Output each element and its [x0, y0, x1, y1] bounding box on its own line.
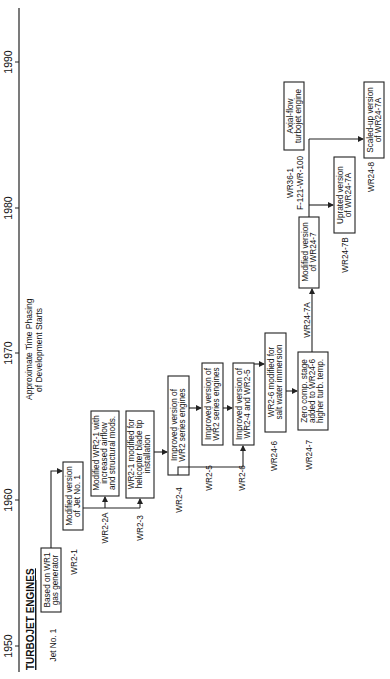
node-wr2-5: Improved version of WR2 series engines W…	[202, 363, 223, 491]
node-code: WR2-4	[175, 487, 184, 513]
node-wr24-8: Scaled-up version of WR24-7A WR24-8	[364, 82, 384, 192]
node-code: WR24-7B	[341, 237, 350, 273]
svg-text:WR2 series engines: WR2 series engines	[178, 388, 187, 461]
node-wr2-3: WR2-1 modified for helicopter blade tip …	[126, 411, 154, 541]
node-code: WR2-6	[238, 465, 247, 491]
timeline-axis: 1950 1960 1970 1980 1990	[2, 8, 19, 672]
svg-text:of Jet No. 1: of Jet No. 1	[73, 475, 82, 517]
node-code: WR36-1	[286, 168, 295, 198]
svg-text:of WR24-7A: of WR24-7A	[374, 97, 383, 142]
node-code: WR2-2A	[101, 512, 110, 543]
svg-text:WR2 series engines: WR2 series engines	[212, 367, 221, 440]
node-code: WR2-3	[136, 515, 145, 541]
year-1960: 1960	[2, 488, 14, 512]
node-jet-no-1: Based on WR1 gas generator Jet No. 1	[41, 548, 61, 661]
node-wr2-2a: Modified WR2-1 with increased airflow an…	[91, 411, 119, 543]
svg-text:gas generator: gas generator	[51, 554, 60, 605]
node-code: Jet No. 1	[49, 628, 58, 661]
svg-text:of WR24-7A: of WR24-7A	[344, 172, 353, 217]
node-code: WR24-6	[270, 441, 279, 471]
svg-text:turbojet engine: turbojet engine	[294, 88, 303, 143]
node-code: WR24-7	[305, 440, 314, 470]
node-code: WR2-5	[205, 465, 214, 491]
svg-text:of WR24-7: of WR24-7	[309, 232, 318, 272]
node-wr2-6: Improved version of WR2-4 and WR2-5 WR2-…	[233, 363, 254, 491]
node-wr2-4: Improved version of WR2 series engines W…	[168, 376, 189, 513]
node-wr24-7a: Modified version of WR24-7 WR24-7A	[299, 217, 319, 338]
axis-caption-line2: of Development Starts	[34, 308, 44, 392]
node-code: WR24-8	[367, 162, 376, 192]
svg-text:installation: installation	[143, 434, 152, 473]
svg-text:higher turb. temp.: higher turb. temp.	[316, 359, 325, 423]
node-wr24-7b: Uprated version of WR24-7A WR24-7B	[334, 157, 355, 273]
node-wr36-1: Axial-flow turbojet engine WR36-1 F-121-…	[284, 82, 305, 210]
node-wr24-7: Zero comp. stage added to WR24-6 higher …	[298, 352, 328, 470]
year-1980: 1980	[2, 196, 14, 220]
year-1950: 1950	[2, 634, 14, 658]
axis-caption-line1: Approximate Time Phasing	[24, 298, 34, 400]
diagram-title: TURBOJET ENGINES	[25, 568, 36, 670]
svg-text:and structural mods.: and structural mods.	[108, 416, 117, 490]
svg-text:WR2-4 and WR2-5: WR2-4 and WR2-5	[243, 369, 252, 439]
turbojet-lineage-diagram: 1950 1960 1970 1980 1990 TURBOJET ENGINE…	[0, 0, 390, 679]
node-wr2-1: Modified version of Jet No. 1 WR2-1	[63, 462, 83, 575]
node-code: WR24-7A	[303, 302, 312, 338]
year-1970: 1970	[2, 341, 14, 365]
node-code: WR2-1	[70, 549, 79, 575]
year-1990: 1990	[2, 50, 14, 74]
node-wr24-6: WR2-6 modified for salt water immersion …	[265, 333, 286, 471]
svg-text:salt water immersion: salt water immersion	[275, 344, 284, 420]
node-code-alt: F-121-WR-100	[296, 155, 305, 210]
